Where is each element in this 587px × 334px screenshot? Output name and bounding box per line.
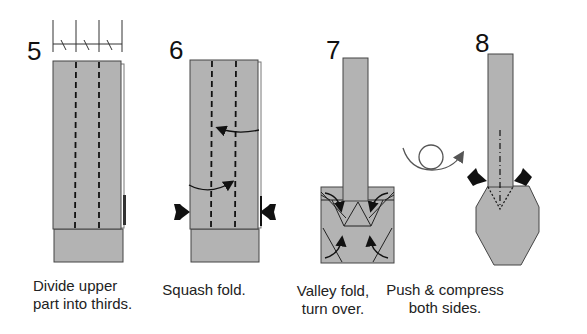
step-8-caption: Push & compress both sides. — [380, 281, 510, 317]
step-7-figure — [321, 58, 394, 263]
push-arrow-icon-left — [467, 168, 487, 186]
push-arrow-icon-right — [514, 168, 532, 186]
step-5-figure — [53, 20, 126, 262]
origami-diagram: 5 6 7 8 Divide upper part into thirds. S… — [0, 0, 587, 334]
step-number-5: 5 — [27, 38, 41, 64]
turn-over-icon — [403, 145, 462, 170]
step-7-caption: Valley fold, turn over. — [283, 282, 383, 318]
step-5-caption: Divide upper part into thirds. — [33, 277, 132, 313]
ruler-thirds-icon — [53, 20, 122, 52]
step-6-caption: Squash fold. — [158, 281, 250, 299]
step-number-7: 7 — [326, 37, 340, 63]
push-arrow-icon-left — [174, 204, 190, 220]
push-arrow-icon-right — [260, 196, 276, 226]
step-6-figure — [174, 60, 276, 262]
step-number-6: 6 — [169, 37, 183, 63]
step-8-figure — [467, 54, 539, 265]
step-number-8: 8 — [475, 30, 489, 56]
